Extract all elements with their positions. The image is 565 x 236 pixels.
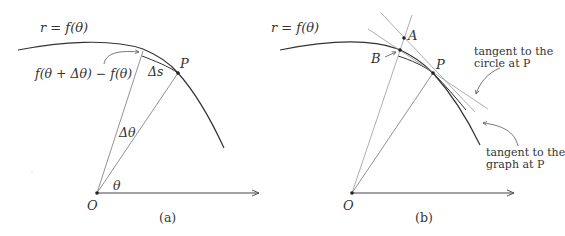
point-p-dot bbox=[431, 71, 435, 75]
point-a-label: A bbox=[407, 28, 417, 43]
circle-tangent-pointer-arrow bbox=[476, 68, 500, 94]
origin-label: O bbox=[343, 198, 354, 213]
ray-theta bbox=[97, 73, 178, 193]
point-p-label: P bbox=[435, 57, 445, 72]
origin-dot bbox=[350, 191, 354, 195]
caption-a: (a) bbox=[159, 210, 176, 225]
graph-tangent-line bbox=[381, 13, 475, 112]
circle-tangent-line bbox=[368, 29, 488, 109]
polar-arc-length-figure: r = f(θ) f(θ + Δθ) − f(θ) Δs P Δθ θ O (a… bbox=[0, 0, 565, 236]
curve-label: r = f(θ) bbox=[40, 20, 88, 35]
point-p-dot bbox=[176, 71, 180, 75]
speck bbox=[31, 171, 32, 172]
graph-tangent-annotation-line2: graph at P bbox=[486, 158, 545, 171]
b-pointer-arrow bbox=[385, 52, 396, 57]
difference-label: f(θ + Δθ) − f(θ) bbox=[34, 66, 132, 81]
origin-dot bbox=[95, 191, 99, 195]
caption-b: (b) bbox=[415, 210, 433, 225]
ray-to-p bbox=[352, 73, 433, 193]
circle-tangent-annotation-line2: circle at P bbox=[474, 57, 531, 70]
point-a-dot bbox=[402, 36, 406, 40]
delta-theta-label: Δθ bbox=[118, 125, 136, 140]
graph-tangent-pointer-arrow bbox=[483, 123, 518, 146]
curve-label: r = f(θ) bbox=[271, 20, 319, 35]
panel-a: r = f(θ) f(θ + Δθ) − f(θ) Δs P Δθ θ O (a… bbox=[18, 20, 259, 225]
point-b-dot bbox=[398, 48, 402, 52]
origin-label: O bbox=[87, 198, 98, 213]
point-p-label: P bbox=[179, 56, 189, 71]
point-b-label: B bbox=[370, 51, 381, 66]
panel-b: r = f(θ) A B P O tangent to the circle a… bbox=[271, 13, 565, 225]
arc-length-label: Δs bbox=[147, 64, 163, 79]
theta-label: θ bbox=[113, 178, 121, 193]
difference-pointer-arrow bbox=[104, 52, 139, 65]
